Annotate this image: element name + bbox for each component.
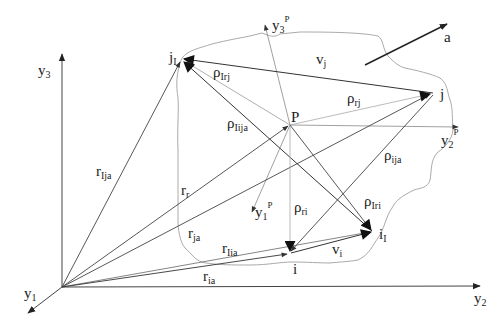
label-rIia: rIia — [222, 240, 238, 258]
label-y2: y2 — [474, 290, 487, 308]
vector-rIia — [62, 232, 370, 287]
label-vi: vi — [332, 241, 343, 259]
label-point-i: i — [293, 261, 297, 277]
label-rhori: ρri — [294, 199, 308, 217]
label-ria: ria — [203, 268, 216, 286]
label-a: a — [444, 29, 451, 45]
label-vj: vj — [316, 51, 326, 69]
label-point-P: P — [291, 109, 299, 125]
vector-rIja — [62, 62, 180, 287]
label-rhoIri: ρIri — [364, 193, 381, 211]
label-rhoIrj: ρIrj — [213, 64, 230, 82]
label-y3: y3 — [38, 62, 51, 80]
label-rhoija: ρija — [384, 147, 402, 165]
y3P-axis — [265, 25, 290, 125]
label-rIja: rIja — [96, 163, 112, 181]
label-y3P: y3P — [272, 14, 290, 35]
y2P-axis — [290, 125, 458, 127]
label-y2P: y2P — [441, 127, 459, 150]
label-point-i1: iI — [379, 226, 387, 244]
label-point-j1: jI — [168, 49, 177, 67]
label-point-j: j — [439, 86, 444, 102]
label-rhorj: ρrj — [347, 90, 361, 108]
label-y1: y1 — [24, 285, 37, 303]
vector-a — [365, 24, 447, 65]
label-rja: rja — [188, 225, 201, 243]
label-rr: rr — [181, 182, 190, 200]
label-y1P: y1P — [255, 200, 273, 222]
label-rhoIija: ρIija — [227, 115, 248, 133]
vector-rhoIija — [184, 62, 372, 231]
y2-axis — [62, 286, 480, 287]
vector-rhoija — [291, 95, 433, 251]
vector-ria — [62, 254, 287, 287]
kinematics-diagram: y3 y2 y1 y3P y2P y1P jI j P i iI rIja rr… — [0, 0, 502, 328]
vector-vi — [291, 232, 371, 253]
